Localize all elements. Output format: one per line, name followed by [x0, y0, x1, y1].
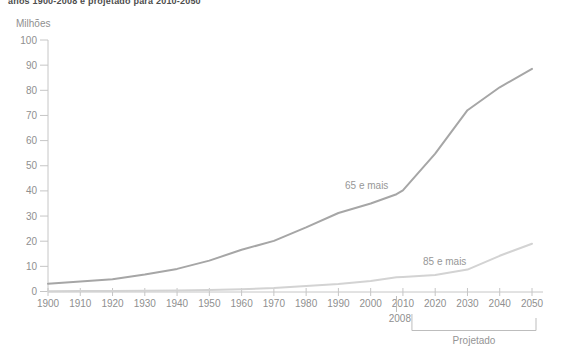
x-tick-label: 1910: [69, 298, 92, 309]
x-tick-label: 2050: [521, 298, 544, 309]
x-tick-label: 1980: [295, 298, 318, 309]
x-tick-label: 2000: [360, 298, 383, 309]
y-tick-label: 10: [26, 261, 38, 272]
y-tick-label: 90: [26, 60, 38, 71]
x-tick-label: 2020: [424, 298, 447, 309]
x-tick-label: 2040: [489, 298, 512, 309]
x-tick-label: 2010: [392, 298, 415, 309]
y-tick-label: 100: [20, 35, 37, 46]
series-line-65-e-mais: [48, 69, 532, 284]
series-label-85-e-mais: 85 e mais: [423, 256, 466, 267]
x-tick-label: 1950: [198, 298, 221, 309]
projected-range-label: Projetado: [412, 335, 536, 346]
y-tick-label: 40: [26, 185, 38, 196]
series-label-65-e-mais: 65 e mais: [345, 180, 388, 191]
divider-year-label: 2008: [367, 313, 411, 324]
x-tick-label: 1900: [37, 298, 60, 309]
y-tick-label: 50: [26, 160, 38, 171]
y-tick-label: 70: [26, 110, 38, 121]
x-tick-label: 1990: [327, 298, 350, 309]
x-tick-label: 1930: [134, 298, 157, 309]
y-tick-label: 60: [26, 135, 38, 146]
series-line-85-e-mais: [48, 244, 532, 292]
x-tick-label: 1970: [263, 298, 286, 309]
x-tick-label: 1940: [166, 298, 189, 309]
y-tick-label: 30: [26, 211, 38, 222]
chart-canvas: anos 1900-2008 e projetado para 2010-205…: [0, 0, 563, 360]
y-tick-label: 0: [31, 286, 37, 297]
x-tick-label: 1920: [101, 298, 124, 309]
y-tick-label: 80: [26, 85, 38, 96]
plot-area: 0102030405060708090100190019101920193019…: [0, 0, 563, 360]
y-tick-label: 20: [26, 236, 38, 247]
projected-bracket: [412, 314, 536, 331]
x-tick-label: 2030: [456, 298, 479, 309]
x-tick-label: 1960: [230, 298, 253, 309]
